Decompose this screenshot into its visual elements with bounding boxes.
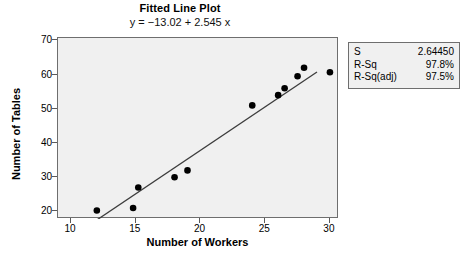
x-axis-tick-label: 20 bbox=[194, 223, 205, 234]
y-axis-tick-mark bbox=[52, 176, 57, 177]
y-axis-tick-mark bbox=[52, 142, 57, 143]
stats-value: 97.8% bbox=[426, 59, 454, 72]
data-point bbox=[275, 92, 282, 99]
x-axis-tick-label: 10 bbox=[64, 223, 75, 234]
y-axis-tick-mark bbox=[52, 108, 57, 109]
fit-line-group bbox=[97, 72, 317, 219]
y-axis-title: Number of Tables bbox=[10, 74, 22, 194]
fitted-line-plot-figure: Fitted Line Plot y = −13.02 + 2.545 x 20… bbox=[0, 0, 472, 270]
statistics-box: S 2.64450 R-Sq 97.8% R-Sq(adj) 97.5% bbox=[348, 42, 460, 89]
x-axis-tick-label: 30 bbox=[323, 223, 334, 234]
y-axis-tick-mark bbox=[52, 39, 57, 40]
x-axis-tick-label: 15 bbox=[129, 223, 140, 234]
data-point bbox=[94, 207, 101, 214]
fit-line bbox=[97, 72, 317, 219]
plot-area bbox=[57, 37, 338, 218]
stats-value: 2.64450 bbox=[418, 46, 454, 59]
stats-value: 97.5% bbox=[426, 71, 454, 84]
stats-row-rsq-adj: R-Sq(adj) 97.5% bbox=[354, 71, 454, 84]
data-point bbox=[130, 205, 137, 212]
data-point bbox=[327, 69, 334, 76]
data-point bbox=[281, 85, 288, 92]
y-axis-tick-mark bbox=[52, 74, 57, 75]
stats-key: S bbox=[354, 46, 361, 59]
x-axis-tick-label: 25 bbox=[259, 223, 270, 234]
data-point bbox=[249, 102, 256, 109]
stats-key: R-Sq(adj) bbox=[354, 71, 397, 84]
data-points-group bbox=[94, 64, 334, 213]
stats-row-rsq: R-Sq 97.8% bbox=[354, 59, 454, 72]
data-point bbox=[171, 174, 178, 181]
x-axis-title: Number of Workers bbox=[57, 236, 338, 248]
plot-canvas bbox=[58, 38, 339, 219]
data-point bbox=[301, 64, 308, 71]
stats-key: R-Sq bbox=[354, 59, 377, 72]
stats-row-s: S 2.64450 bbox=[354, 46, 454, 59]
data-point bbox=[135, 184, 142, 191]
y-axis-tick-mark bbox=[52, 210, 57, 211]
data-point bbox=[184, 167, 191, 174]
data-point bbox=[294, 73, 301, 80]
